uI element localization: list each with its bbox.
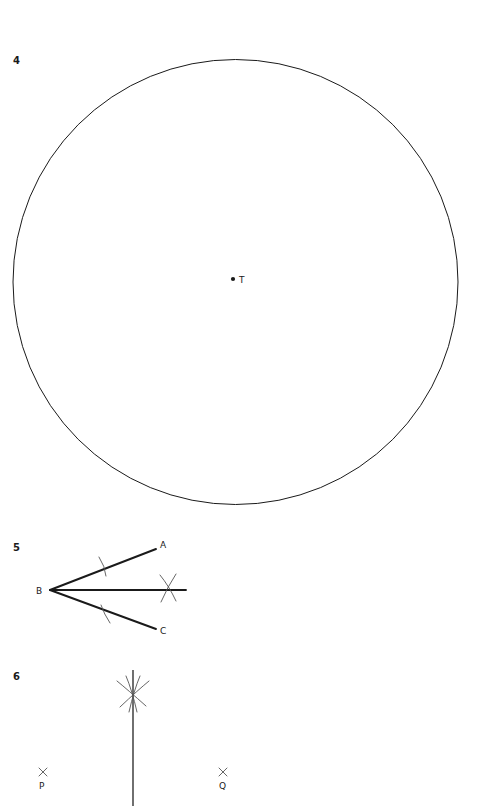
point-label-b: B	[36, 586, 42, 596]
center-point-dot	[231, 277, 235, 281]
point-label-p: P	[39, 781, 45, 791]
point-marker-p	[39, 768, 47, 776]
point-label-a: A	[160, 540, 167, 550]
figure-perpendicular-bisector-problem-6: P Q	[39, 670, 227, 806]
ray-ba	[50, 549, 156, 590]
circle-outline	[13, 60, 458, 505]
point-marker-q	[219, 768, 227, 776]
point-label-c: C	[160, 626, 166, 636]
figure-circle-problem-4: T	[13, 60, 458, 505]
compass-arc-vertical-left	[126, 676, 137, 712]
point-label-q: Q	[219, 781, 226, 791]
constructions-canvas: T A C B P	[0, 0, 483, 806]
center-point-label: T	[238, 275, 245, 285]
figure-angle-bisector-problem-5: A C B	[36, 540, 186, 636]
compass-arc-on-ray-bc	[101, 605, 110, 623]
compass-arc-on-ray-ba	[99, 557, 106, 576]
worksheet-page: 4 5 6 T A C B	[0, 0, 483, 806]
compass-arc-from-bc-point	[161, 574, 176, 602]
